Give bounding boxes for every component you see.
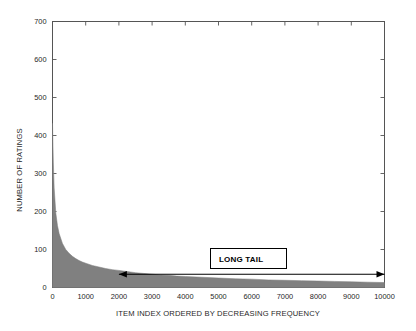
y-axis-tick-labels: 0100200300400500600700 <box>34 17 46 292</box>
x-tick-label-2000: 2000 <box>111 292 127 301</box>
x-tick-label-0: 0 <box>50 292 54 301</box>
y-tick-label-700: 700 <box>34 17 46 26</box>
x-tick-label-3000: 3000 <box>144 292 160 301</box>
chart-figure: 0100200300400500600700 01000200030004000… <box>0 0 416 331</box>
x-tick-label-4000: 4000 <box>177 292 193 301</box>
y-tick-label-200: 200 <box>34 207 46 216</box>
y-tick-label-300: 300 <box>34 169 46 178</box>
y-tick-label-600: 600 <box>34 55 46 64</box>
x-axis-title: ITEM INDEX ORDERED BY DECREASING FREQUEN… <box>116 309 320 318</box>
y-tick-label-500: 500 <box>34 93 46 102</box>
y-tick-label-100: 100 <box>34 245 46 254</box>
y-tick-label-0: 0 <box>42 283 46 292</box>
y-tick-label-400: 400 <box>34 131 46 140</box>
arrow-head-right-icon <box>377 271 385 277</box>
x-tick-label-5000: 5000 <box>210 292 226 301</box>
y-axis-ticks <box>53 22 385 288</box>
long-tail-annotation: LONG TAIL <box>119 249 385 278</box>
x-tick-label-9000: 9000 <box>343 292 359 301</box>
long-tail-chart: 0100200300400500600700 01000200030004000… <box>0 0 416 331</box>
x-tick-label-6000: 6000 <box>243 292 259 301</box>
x-tick-label-8000: 8000 <box>310 292 326 301</box>
x-tick-label-1000: 1000 <box>77 292 93 301</box>
x-axis-ticks <box>53 22 385 288</box>
long-tail-label: LONG TAIL <box>219 255 263 264</box>
x-tick-label-10000: 10000 <box>374 292 395 301</box>
x-tick-label-7000: 7000 <box>277 292 293 301</box>
y-axis-title: NUMBER OF RATINGS <box>15 128 24 211</box>
x-axis-tick-labels: 0100020003000400050006000700080009000100… <box>50 292 394 301</box>
plot-area-frame <box>53 22 385 288</box>
